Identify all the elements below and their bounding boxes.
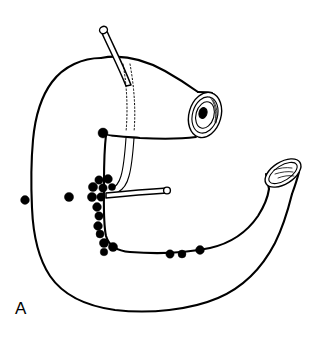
lymph-node-marker: [95, 176, 103, 184]
lymph-node-marker: [87, 192, 96, 201]
lymph-node-marker: [95, 212, 103, 220]
lymph-node-marker: [21, 196, 30, 205]
lymph-node-marker: [93, 203, 102, 212]
lymph-node-marker: [96, 230, 104, 238]
lymph-node-marker: [166, 250, 174, 258]
lymph-node-marker: [104, 175, 113, 184]
lymph-node-marker: [88, 182, 97, 191]
lymph-node-marker: [97, 193, 105, 201]
lymph-node-marker: [108, 242, 117, 251]
cannula-antral-tip-lumen: [164, 187, 171, 194]
lymph-node-marker: [94, 222, 103, 231]
lymph-node-marker: [100, 248, 108, 256]
lymph-node-marker: [99, 184, 107, 192]
panel-label: A: [15, 299, 27, 319]
lymph-node-marker: [98, 128, 108, 138]
figure-panel: A: [0, 0, 320, 340]
lymph-node-marker: [196, 246, 205, 255]
stomach-outline-group: [31, 57, 299, 312]
anatomical-line-drawing: [0, 0, 320, 340]
lymph-node-marker: [108, 183, 115, 190]
lymph-node-marker: [99, 238, 108, 247]
lymph-node-marker: [64, 192, 73, 201]
lymph-node-marker: [178, 250, 186, 258]
